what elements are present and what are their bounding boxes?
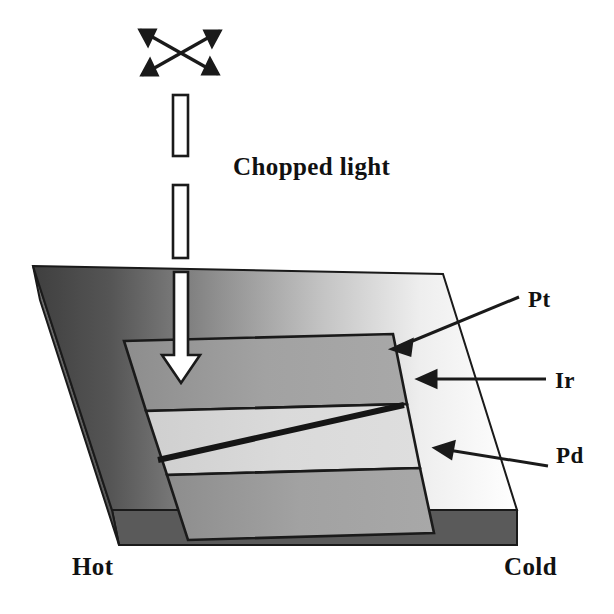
diagram-canvas bbox=[0, 0, 614, 614]
stripe-ir bbox=[146, 404, 420, 475]
label-hot: Hot bbox=[72, 553, 113, 581]
label-cold: Cold bbox=[504, 553, 557, 581]
label-pt: Pt bbox=[528, 287, 551, 313]
label-pd: Pd bbox=[556, 443, 584, 469]
label-chopped-light: Chopped light bbox=[233, 153, 390, 181]
figure-container: Chopped light Pt Ir Pd Hot Cold bbox=[0, 0, 614, 614]
leader-arrow-ir bbox=[418, 371, 546, 387]
stripe-pd bbox=[167, 468, 434, 540]
label-ir: Ir bbox=[555, 368, 575, 394]
chopper-blade-upper bbox=[173, 95, 188, 156]
chopper-blades bbox=[173, 95, 188, 258]
crossed-double-arrows bbox=[140, 30, 220, 75]
chopper-blade-lower bbox=[173, 185, 188, 258]
stripe-pt bbox=[124, 334, 407, 411]
